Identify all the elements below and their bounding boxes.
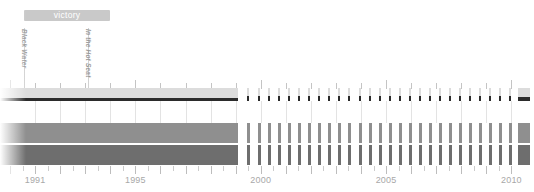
axis-minor-tick	[424, 166, 425, 171]
series-tick	[409, 145, 412, 165]
series-tick	[258, 123, 261, 143]
series-tick	[389, 145, 392, 165]
series-tick	[449, 123, 452, 143]
axis-major-tick	[286, 166, 287, 174]
series-tick	[369, 123, 372, 143]
axis-minor-tick	[23, 166, 24, 171]
series-tick	[429, 145, 432, 165]
series-tick	[379, 123, 382, 143]
axis-major-tick	[361, 166, 362, 174]
axis-tick-label: 1991	[25, 175, 46, 185]
axis-major-tick	[336, 166, 337, 174]
series-tick	[308, 123, 311, 143]
gridline	[85, 101, 86, 123]
series-tick	[247, 145, 250, 165]
series-tick	[278, 88, 280, 101]
axis-minor-tick	[499, 166, 500, 171]
series-tick	[328, 123, 331, 143]
series-tick	[419, 123, 422, 143]
series-tick	[328, 145, 331, 165]
axis-major-tick	[411, 166, 412, 174]
gridline	[135, 101, 136, 123]
axis-minor-tick	[98, 166, 99, 171]
gridline	[261, 101, 262, 123]
axis-major-tick	[261, 166, 262, 174]
series-tick	[328, 88, 330, 101]
series-tick	[439, 145, 442, 165]
series-tick	[469, 145, 472, 165]
series-tick	[509, 123, 512, 143]
series-tick	[268, 88, 270, 101]
axis-major-tick	[211, 166, 212, 174]
series-tick	[338, 88, 340, 101]
series-tick	[409, 123, 412, 143]
series-tick	[278, 145, 281, 165]
end-block	[518, 88, 531, 101]
series-tick	[258, 88, 260, 101]
series-tick	[469, 88, 471, 101]
series-tick	[308, 88, 310, 101]
series-tick	[459, 123, 462, 143]
series-row-2	[0, 123, 534, 143]
axis-major-tick	[511, 166, 512, 174]
series-tick	[389, 123, 392, 143]
gridline	[211, 101, 212, 123]
axis-major-tick	[135, 166, 136, 174]
series-tick	[308, 145, 311, 165]
series-tick	[359, 145, 362, 165]
series-tick	[247, 88, 249, 101]
series-tick	[419, 145, 422, 165]
axis-minor-tick	[323, 166, 324, 171]
series-tick	[359, 123, 362, 143]
x-axis: 19911995200020052010	[0, 166, 534, 192]
gridline	[461, 101, 462, 123]
series-tick	[318, 88, 320, 101]
axis-tick-label: 2005	[376, 175, 397, 185]
series-tick	[439, 123, 442, 143]
axis-major-tick	[60, 166, 61, 174]
series-tick	[409, 88, 411, 101]
series-tick	[479, 145, 482, 165]
continuous-block	[0, 123, 238, 143]
gridline	[236, 101, 237, 123]
axis-major-tick	[436, 166, 437, 174]
axis-major-tick	[35, 166, 36, 174]
gridline	[35, 101, 36, 123]
axis-minor-tick	[173, 166, 174, 171]
series-tick	[509, 88, 511, 101]
axis-minor-tick	[348, 166, 349, 171]
end-block	[518, 145, 531, 165]
gridline	[486, 101, 487, 123]
series-tick	[348, 88, 350, 101]
series-tick	[369, 88, 371, 101]
series-tick	[489, 123, 492, 143]
axis-major-tick	[311, 166, 312, 174]
series-tick	[348, 145, 351, 165]
series-tick	[479, 88, 481, 101]
gap-gridlines	[0, 101, 534, 123]
axis-minor-tick	[198, 166, 199, 171]
gridline	[160, 101, 161, 123]
axis-major-tick	[186, 166, 187, 174]
series-tick	[258, 145, 261, 165]
series-tick	[399, 88, 401, 101]
axis-tick-label: 2010	[501, 175, 522, 185]
continuous-block	[0, 88, 238, 98]
series-tick	[338, 123, 341, 143]
gridline	[110, 101, 111, 123]
axis-major-tick	[386, 166, 387, 174]
axis-minor-tick	[73, 166, 74, 171]
series-tick	[399, 123, 402, 143]
axis-major-tick	[236, 166, 237, 174]
axis-tick-label: 2000	[250, 175, 271, 185]
series-tick	[247, 123, 250, 143]
series-tick	[399, 145, 402, 165]
series-tick	[439, 88, 441, 101]
gridline	[411, 101, 412, 123]
gridline	[336, 101, 337, 123]
series-tick	[449, 88, 451, 101]
series-tick	[509, 145, 512, 165]
series-tick	[459, 88, 461, 101]
gridline	[186, 101, 187, 123]
end-block	[518, 123, 531, 143]
